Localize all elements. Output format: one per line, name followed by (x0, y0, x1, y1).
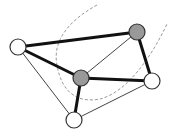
edge-middle-right (81, 78, 152, 81)
edge-bottom-right (74, 81, 152, 120)
graph-svg (0, 0, 175, 136)
edge-left-bottom (18, 47, 74, 120)
node-middle (73, 70, 89, 86)
node-right (144, 73, 160, 89)
graph-diagram (0, 0, 175, 136)
node-bottom (66, 112, 82, 128)
node-top-right (129, 24, 145, 40)
edge-left-middle (18, 47, 81, 78)
node-left (10, 39, 26, 55)
edge-left-top_right (18, 32, 137, 47)
